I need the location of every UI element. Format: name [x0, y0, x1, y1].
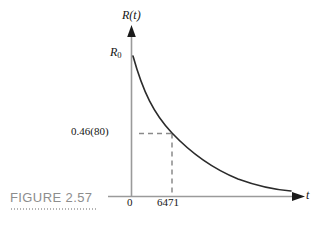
y-axis-title: R(t): [122, 8, 141, 23]
figure-page: R(t) t R0 0.46(80) 0 6471 FIGURE 2.57: [0, 0, 334, 233]
figure-caption-rule: [10, 208, 98, 210]
x-value-label: 6471: [157, 196, 179, 208]
x-axis-arrowhead: [292, 192, 305, 201]
figure-caption-text: FIGURE 2.57: [10, 190, 102, 206]
y-axis-arrowhead: [127, 25, 136, 37]
y-value-label: 0.46(80): [71, 125, 109, 137]
initial-value-label: R0: [110, 45, 122, 60]
origin-label: 0: [127, 196, 133, 208]
initial-value-subscript: 0: [117, 50, 121, 60]
x-axis-title: t: [306, 188, 309, 203]
figure-caption: FIGURE 2.57: [10, 190, 102, 210]
decay-curve: [133, 56, 291, 191]
